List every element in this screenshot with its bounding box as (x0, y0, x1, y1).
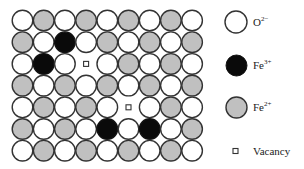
oxygen-ion-icon (225, 11, 247, 33)
fe2-ion-site (118, 10, 139, 31)
fe2-ion-site (12, 32, 33, 53)
legend-label-fe3: Fe3+ (253, 58, 272, 71)
fe2-ion-site (118, 140, 139, 161)
oxygen-ion-site (55, 140, 76, 161)
legend-label-fe2: Fe2+ (253, 100, 272, 113)
legend: O2− Fe3+ Fe2+ Vacancy (225, 11, 291, 157)
oxygen-ion-site (97, 97, 118, 118)
oxygen-ion-site (12, 140, 33, 161)
fe2-ion-site (182, 75, 203, 96)
fe3-ion-site (55, 32, 76, 53)
fe3-ion-site (97, 119, 118, 140)
legend-item-fe2: Fe2+ (226, 97, 272, 118)
fe2-ion-site (55, 75, 76, 96)
oxygen-ion-site (118, 119, 139, 140)
legend-item-oxygen: O2− (225, 11, 268, 33)
oxygen-ion-site (182, 140, 203, 161)
oxygen-ion-site (76, 119, 97, 140)
oxygen-ion-site (76, 32, 97, 53)
oxygen-ion-site (118, 75, 139, 96)
oxygen-ion-site (33, 119, 54, 140)
fe2-ion-site (139, 32, 160, 53)
oxygen-ion-site (139, 140, 160, 161)
fe2-ion-site (161, 97, 182, 118)
lattice-diagram: O2− Fe3+ Fe2+ Vacancy (0, 0, 304, 169)
oxygen-ion-site (97, 140, 118, 161)
fe2-ion-site (161, 10, 182, 31)
fe2-ion-site (55, 119, 76, 140)
oxygen-ion-site (55, 10, 76, 31)
oxygen-ion-site (12, 10, 33, 31)
fe2-ion-site (33, 97, 54, 118)
oxygen-ion-site (139, 54, 160, 75)
oxygen-ion-site (33, 75, 54, 96)
fe2-ion-site (139, 75, 160, 96)
oxygen-ion-site (139, 10, 160, 31)
fe2-ion-site (182, 119, 203, 140)
fe3-ion-icon (226, 55, 247, 76)
oxygen-ion-site (97, 54, 118, 75)
fe2-ion-site (12, 119, 33, 140)
fe2-ion-site (76, 10, 97, 31)
oxygen-ion-site (12, 97, 33, 118)
vacancy-site (84, 61, 89, 66)
fe2-ion-icon (226, 97, 247, 118)
fe2-ion-site (33, 140, 54, 161)
legend-item-fe3: Fe3+ (226, 55, 272, 76)
fe2-ion-site (12, 75, 33, 96)
fe2-ion-site (182, 32, 203, 53)
oxygen-ion-site (33, 32, 54, 53)
fe2-ion-site (33, 10, 54, 31)
oxygen-ion-site (12, 54, 33, 75)
legend-label-oxygen: O2− (253, 15, 268, 28)
oxygen-ion-site (182, 97, 203, 118)
fe2-ion-site (76, 140, 97, 161)
oxygen-ion-site (118, 32, 139, 53)
fe3-ion-site (33, 54, 54, 75)
oxygen-ion-site (97, 10, 118, 31)
fe2-ion-site (161, 140, 182, 161)
fe3-ion-site (139, 119, 160, 140)
oxygen-ion-site (161, 119, 182, 140)
fe2-ion-site (97, 75, 118, 96)
fe2-ion-site (76, 97, 97, 118)
fe2-ion-site (161, 54, 182, 75)
oxygen-ion-site (161, 75, 182, 96)
vacancy-site (126, 105, 131, 110)
legend-item-vacancy: Vacancy (233, 145, 291, 157)
lattice-grid (12, 10, 202, 161)
oxygen-ion-site (55, 97, 76, 118)
oxygen-ion-site (182, 10, 203, 31)
legend-label-vacancy: Vacancy (253, 145, 291, 157)
oxygen-ion-site (161, 32, 182, 53)
oxygen-ion-site (139, 97, 160, 118)
oxygen-ion-site (182, 54, 203, 75)
oxygen-ion-site (76, 75, 97, 96)
vacancy-icon (233, 149, 238, 154)
fe2-ion-site (97, 32, 118, 53)
fe2-ion-site (118, 54, 139, 75)
oxygen-ion-site (55, 54, 76, 75)
